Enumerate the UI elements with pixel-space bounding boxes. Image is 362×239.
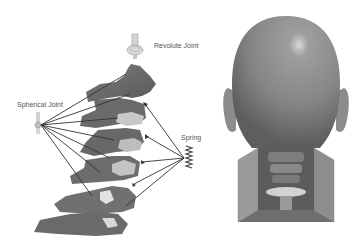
spherical-joint-icon <box>35 112 41 134</box>
spring-label: Spring <box>181 134 201 141</box>
diagram-canvas <box>0 0 362 239</box>
spring-icon <box>186 146 192 168</box>
spherical-joint-label: Spherical Joint <box>17 101 63 108</box>
revolute-joint-icon <box>127 34 143 59</box>
head-model <box>223 16 349 148</box>
cervical-spine <box>34 64 156 236</box>
revolute-joint-label: Revolute Joint <box>154 42 198 49</box>
neck-section <box>238 148 334 222</box>
